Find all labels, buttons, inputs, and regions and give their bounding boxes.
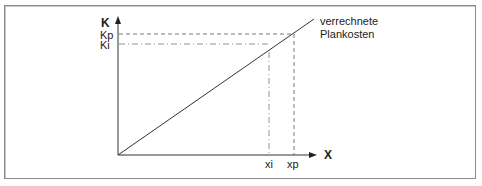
line-label-1: verrechnete <box>320 15 378 27</box>
x-axis-label: X <box>324 149 332 161</box>
y-tick-ki: Ki <box>100 39 110 51</box>
x-axis-arrow-icon <box>309 152 317 158</box>
cost-diagram <box>0 0 482 186</box>
x-tick-xi: xi <box>265 158 273 170</box>
y-axis-label: K <box>101 17 110 29</box>
plankosten-line <box>118 19 314 155</box>
y-axis-arrow-icon <box>115 16 121 24</box>
x-tick-xp: xp <box>287 158 299 170</box>
line-label-2: Plankosten <box>320 28 374 40</box>
